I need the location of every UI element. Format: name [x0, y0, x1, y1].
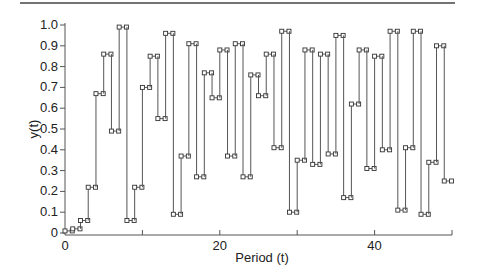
data-point-marker [218, 48, 222, 52]
data-point-marker [287, 210, 291, 214]
x-tick-label: 0 [61, 238, 68, 253]
data-point-marker [264, 52, 268, 56]
data-point-marker [450, 179, 454, 183]
y-tick-label: 0.9 [40, 38, 58, 53]
data-point-marker [171, 212, 175, 216]
data-point-marker [241, 175, 245, 179]
data-point-marker [156, 117, 160, 121]
data-point-marker [202, 71, 206, 75]
x-tick-label: 40 [367, 238, 381, 253]
data-point-marker [195, 175, 199, 179]
data-point-marker [373, 54, 377, 58]
data-point-marker [295, 158, 299, 162]
data-point-marker [349, 102, 353, 106]
y-tick-label: 0.8 [40, 59, 58, 74]
data-point-marker [404, 146, 408, 150]
data-point-marker [140, 85, 144, 89]
data-point-marker [318, 52, 322, 56]
data-point-marker [63, 229, 67, 233]
data-point-marker [334, 33, 338, 37]
data-point-marker [179, 154, 183, 158]
data-point-marker [357, 48, 361, 52]
data-point-marker [164, 31, 168, 35]
data-point-marker [226, 154, 230, 158]
data-point-marker [102, 52, 106, 56]
data-point-marker [109, 129, 113, 133]
data-point-marker [78, 219, 82, 223]
y-tick-label: 0.3 [40, 163, 58, 178]
x-tick-label: 20 [213, 238, 227, 253]
data-point-marker [125, 219, 129, 223]
y-tick-label: 0.6 [40, 100, 58, 115]
data-point-marker [257, 94, 261, 98]
data-point-marker [249, 73, 253, 77]
data-point-marker [411, 29, 415, 33]
y-axis-label: y(t) [26, 120, 41, 139]
y-tick-label: 0.5 [40, 121, 58, 136]
data-point-marker [86, 185, 90, 189]
data-point-marker [365, 167, 369, 171]
data-point-marker [342, 196, 346, 200]
y-tick-label: 0 [51, 225, 58, 240]
data-point-marker [419, 212, 423, 216]
y-tick-label: 0.1 [40, 204, 58, 219]
data-point-marker [326, 152, 330, 156]
x-axis-label: Period (t) [235, 250, 288, 265]
data-point-marker [396, 208, 400, 212]
data-point-marker [427, 160, 431, 164]
data-point-marker [71, 227, 75, 231]
y-tick-label: 0.2 [40, 183, 58, 198]
data-point-marker [187, 42, 191, 46]
chart: 00.10.20.30.40.50.60.70.80.91.002040 Per… [0, 0, 477, 278]
series-y-t [63, 25, 454, 233]
data-point-marker [133, 185, 137, 189]
data-point-marker [148, 54, 152, 58]
data-point-marker [388, 29, 392, 33]
data-point-marker [280, 29, 284, 33]
data-point-marker [442, 179, 446, 183]
data-point-marker [311, 162, 315, 166]
data-point-marker [303, 48, 307, 52]
data-point-marker [272, 146, 276, 150]
data-point-marker [233, 42, 237, 46]
data-point-marker [210, 96, 214, 100]
data-point-marker [435, 44, 439, 48]
y-tick-label: 1.0 [40, 17, 58, 32]
data-point-marker [380, 148, 384, 152]
y-tick-label: 0.7 [40, 79, 58, 94]
data-point-marker [117, 25, 121, 29]
y-tick-label: 0.4 [40, 142, 58, 157]
data-point-marker [94, 92, 98, 96]
